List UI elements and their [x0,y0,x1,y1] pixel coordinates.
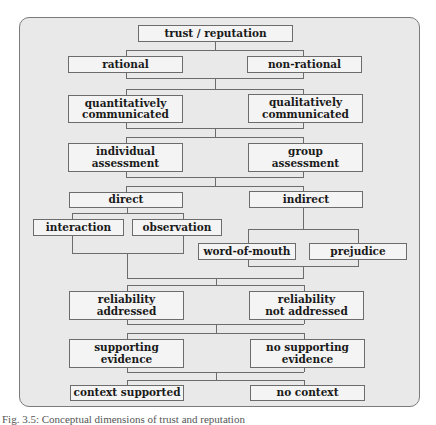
connector [248,229,359,230]
connector [127,333,304,334]
connector [126,186,304,187]
connector [127,285,304,286]
connector [126,89,304,90]
connector [303,208,304,229]
node-individual-assessment: individual assessment [68,143,183,172]
connector [215,128,216,137]
node-context-supported: context supported [70,385,184,401]
node-rational: rational [68,56,183,73]
node-supporting-evidence: supporting evidence [69,339,184,368]
connector [216,278,217,285]
connector [127,253,128,278]
node-non-rational: non-rational [247,56,362,73]
node-no-context: no context [250,385,365,401]
node-trust-reputation: trust / reputation [138,25,293,42]
node-reliability-not-addressed: reliability not addressed [249,291,364,320]
connector [303,266,304,278]
caption-text: Fig. 3.5: Conceptual dimensions of trust… [2,413,245,425]
connector [215,177,216,186]
node-quantitatively-communicated: quantitatively communicated [68,95,183,123]
node-observation: observation [132,219,222,236]
connector [127,380,304,381]
connector [215,42,216,50]
connector [216,324,217,333]
connector [72,253,184,254]
node-no-supporting-evidence: no supporting evidence [250,339,365,368]
node-qualitatively-communicated: qualitatively communicated [248,94,363,123]
connector [126,137,304,138]
node-interaction: interaction [33,219,124,236]
figure-caption: Fig. 3.5: Conceptual dimensions of trust… [2,412,432,425]
connector [216,372,217,380]
node-prejudice: prejudice [309,243,407,260]
node-group-assessment: group assessment [248,143,363,172]
node-word-of-mouth: word-of-mouth [198,243,296,260]
connector [126,50,304,51]
node-reliability-addressed: reliability addressed [69,291,184,320]
node-direct: direct [69,192,183,208]
connector [215,78,216,89]
node-indirect: indirect [249,191,363,208]
connector [72,213,184,214]
